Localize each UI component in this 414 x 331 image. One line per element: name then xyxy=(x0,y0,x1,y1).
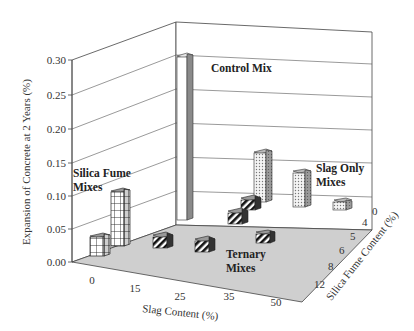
x-tick: 15 xyxy=(130,282,142,294)
x-axis-title: Slag Content (%) xyxy=(142,302,220,323)
annotation-ternary: Ternary xyxy=(226,248,266,261)
bar-ternary-5 xyxy=(195,236,215,252)
annotation-silica-fume: Silica Fume xyxy=(73,167,131,179)
bar-slag-35 xyxy=(293,169,311,207)
z-tick: 4 xyxy=(362,216,368,228)
z-tick: 12 xyxy=(314,278,325,290)
bar-ternary-1 xyxy=(241,195,261,210)
annotation-control-mix: Control Mix xyxy=(211,62,272,74)
bar-silica-fume-4 xyxy=(111,188,130,246)
annotation-slag-only: Slag Only xyxy=(316,162,365,175)
y-axis: 0.00 0.05 0.10 0.15 0.20 0.25 0.30 Expan… xyxy=(20,54,72,268)
y-tick: 0.00 xyxy=(47,256,67,268)
annotation-silica-fume-2: Mixes xyxy=(73,181,103,193)
bar-slag-50 xyxy=(333,198,352,210)
y-axis-title: Expansion of Concrete at 2 Years (%) xyxy=(20,79,33,245)
annotation-ternary-2: Mixes xyxy=(226,262,256,274)
x-tick: 0 xyxy=(89,274,95,286)
y-tick: 0.15 xyxy=(47,157,67,169)
z-tick: 6 xyxy=(339,244,345,256)
y-tick: 0.30 xyxy=(47,54,67,66)
x-tick: 50 xyxy=(271,296,283,308)
y-tick: 0.05 xyxy=(47,223,67,235)
z-tick: 0 xyxy=(372,205,378,217)
bar-slag-25 xyxy=(254,149,272,202)
annotation-slag-only-2: Mixes xyxy=(316,176,346,188)
bar-control-mix xyxy=(177,53,193,220)
x-tick: 35 xyxy=(224,290,236,302)
bar-silica-fume-12 xyxy=(90,233,110,256)
bar-ternary-2 xyxy=(228,208,248,224)
y-tick: 0.10 xyxy=(47,190,67,202)
z-tick: 8 xyxy=(328,260,334,272)
x-tick: 25 xyxy=(175,290,187,302)
z-tick: 5 xyxy=(350,230,356,242)
bar-ternary-3 xyxy=(256,230,275,243)
y-tick: 0.25 xyxy=(47,89,67,101)
bar-ternary-4 xyxy=(153,232,173,248)
y-tick: 0.20 xyxy=(47,123,67,135)
expansion-3d-bar-chart: 0.00 0.05 0.10 0.15 0.20 0.25 0.30 Expan… xyxy=(0,0,414,331)
